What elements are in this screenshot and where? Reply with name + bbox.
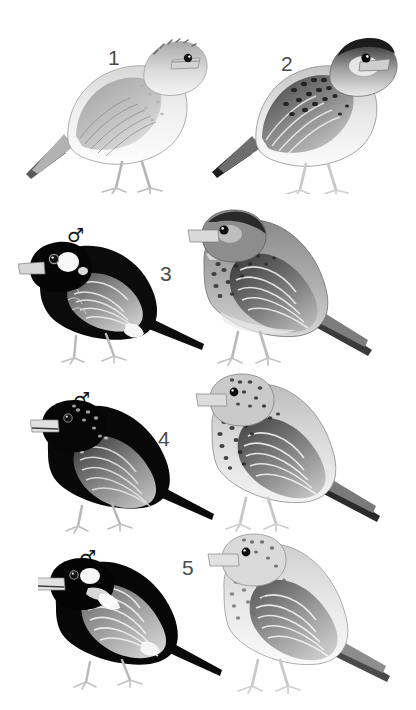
bird-legs [116, 162, 150, 188]
bird-illustration-plate: 1 [0, 0, 416, 710]
bird-beak [188, 230, 219, 242]
plate-number-4: 4 [158, 428, 170, 449]
bird-legs [252, 660, 288, 686]
bird-feet [62, 356, 126, 364]
bird-beak [38, 578, 65, 590]
bird-legs [232, 332, 268, 358]
bird-legs [74, 334, 114, 358]
bird-beak [30, 420, 59, 432]
bird-legs [86, 660, 130, 682]
figure-bird-5-female [206, 530, 404, 696]
bird-beak [196, 394, 227, 406]
bird-feet [66, 524, 132, 533]
bird-eye [184, 54, 192, 62]
bird-beak [18, 262, 45, 274]
bird-feet [74, 680, 142, 689]
bird-eye [361, 53, 370, 62]
bird-eye [230, 388, 239, 397]
figure-bird-5-male [38, 556, 228, 698]
nape-spot [78, 267, 88, 275]
bird-feet [238, 686, 300, 693]
bird-eye [242, 548, 251, 557]
figure-bird-3-male [18, 238, 208, 372]
bird-legs [240, 498, 276, 524]
bird-legs [300, 164, 336, 190]
bird-eye [219, 225, 228, 234]
cheek-white-patch [57, 252, 79, 272]
plate-number-3: 3 [160, 263, 172, 284]
cheek-white-patch [80, 568, 100, 584]
bird-feet [102, 188, 162, 194]
figure-bird-4-male [30, 398, 220, 540]
bird-feet [286, 190, 348, 194]
figure-bird-3-female [186, 208, 386, 370]
plate-number-1: 1 [108, 47, 120, 68]
plate-number-2: 2 [281, 53, 293, 74]
figure-bird-2-scaled [206, 22, 398, 194]
plate-number-5: 5 [182, 557, 194, 578]
figure-bird-4-female [194, 370, 394, 536]
bird-feet [218, 358, 280, 365]
bird-beak [208, 554, 239, 566]
bird-legs [78, 504, 120, 526]
